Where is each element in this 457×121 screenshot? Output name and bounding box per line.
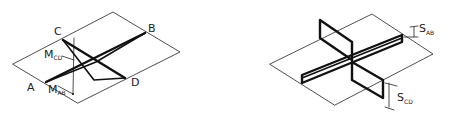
panel-cd-lower — [352, 62, 383, 98]
label-s-ab-sub: AB — [426, 29, 434, 36]
label-s-cd: SCD — [397, 91, 413, 105]
label-d: D — [131, 76, 139, 89]
label-b: B — [148, 22, 156, 35]
ab-point-marker — [72, 93, 74, 95]
label-m-ab-main: M — [48, 83, 58, 96]
label-m-cd: MCD — [44, 48, 63, 61]
label-a: A — [27, 81, 35, 94]
label-m-ab-sub: AB — [58, 89, 66, 96]
left-diagram: C B A D MCD MAB — [13, 12, 180, 103]
label-c: C — [54, 25, 62, 38]
label-s-ab: SAB — [419, 22, 434, 36]
cd-dimension-tick — [62, 56, 74, 60]
label-s-cd-main: S — [397, 91, 404, 104]
right-diagram: SAB SCD — [270, 14, 434, 110]
diagram-canvas: C B A D MCD MAB SAB SCD — [0, 0, 457, 121]
label-m-cd-sub: CD — [54, 54, 63, 61]
label-s-ab-main: S — [419, 22, 426, 35]
s-ab-tick-top — [410, 26, 418, 27]
label-s-cd-sub: CD — [404, 98, 413, 105]
label-m-ab: MAB — [48, 83, 66, 96]
s-cd-tick-bottom — [385, 107, 394, 110]
s-cd-tick-top — [385, 83, 397, 86]
label-m-cd-main: M — [44, 48, 54, 61]
